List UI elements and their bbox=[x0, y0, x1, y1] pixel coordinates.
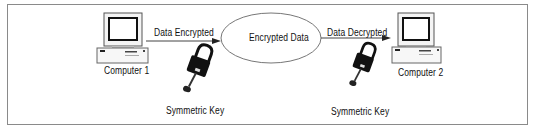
decrypt-edge-label: Data Decrypted bbox=[327, 27, 387, 38]
diagram-canvas bbox=[0, 0, 536, 132]
symmetric-key-label-left: Symmetric Key bbox=[166, 105, 224, 116]
computer-1-label: Computer 1 bbox=[104, 65, 149, 76]
computer-2-icon bbox=[392, 13, 441, 63]
symmetric-key-label-right: Symmetric Key bbox=[331, 106, 389, 117]
encrypt-edge-label: Data Encrypted bbox=[154, 27, 214, 38]
padlock-key-icon-left bbox=[179, 42, 215, 97]
cloud-node-label: Encrypted Data bbox=[249, 32, 309, 43]
computer-1-icon bbox=[97, 13, 148, 63]
computer-2-label: Computer 2 bbox=[398, 67, 443, 78]
encrypt-arrow bbox=[146, 38, 221, 44]
padlock-key-icon-right bbox=[346, 40, 379, 89]
